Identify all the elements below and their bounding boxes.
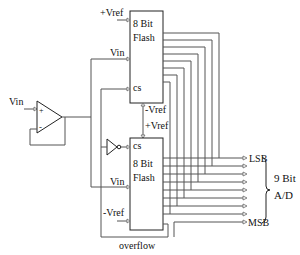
output-brace-icon	[262, 157, 270, 223]
top-flash-cs-label: cs	[133, 82, 141, 93]
top-flash-vref-pos-label: +Vref	[100, 7, 124, 18]
bottom-flash-vref-neg-label: -Vref	[103, 207, 125, 218]
opamp-minus-sign: -	[39, 122, 42, 132]
bottom-flash-cs-label: cs	[133, 140, 141, 151]
inverter-icon	[107, 139, 117, 155]
top-flash-vin-label: Vin	[110, 47, 124, 58]
bottom-flash-block	[130, 138, 163, 230]
bottom-flash-vref-pos-label: +Vref	[145, 120, 169, 131]
overflow-label: overflow	[119, 240, 156, 251]
bracket-label-line2: A/D	[274, 189, 293, 201]
opamp-plus-sign: +	[39, 106, 44, 115]
top-flash-vref-neg-label: -Vref	[145, 104, 167, 115]
top-flash-label-line2: Flash	[133, 32, 155, 43]
top-flash-label-line1: 8 Bit	[133, 18, 153, 29]
bottom-flash-label-line1: 8 Bit	[133, 158, 153, 169]
circuit-diagram: 8 Bit Flash cs +Vref Vin -Vref +Vref cs …	[0, 0, 300, 255]
bottom-flash-label-line2: Flash	[133, 172, 155, 183]
output-pins	[243, 156, 247, 224]
bottom-flash-outputs	[163, 158, 243, 237]
buffer-vin-label: Vin	[9, 96, 23, 107]
bracket-label-line1: 9 Bit	[274, 172, 296, 184]
bottom-flash-vin-label: Vin	[110, 176, 124, 187]
top-flash-outputs	[163, 33, 219, 214]
